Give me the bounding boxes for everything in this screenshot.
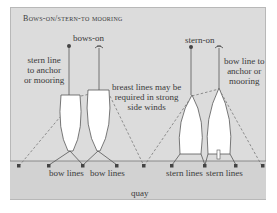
passerelle — [217, 150, 220, 159]
label-breast-lines: breast lines may be required in strong s… — [112, 82, 181, 112]
label-quay: quay — [131, 188, 149, 198]
anchor-icon — [215, 46, 223, 48]
label-bow-lines-1: bow lines — [49, 168, 84, 178]
boat-stern-on-1 — [179, 95, 202, 154]
label-stern-lines-1: stern lines — [166, 168, 203, 178]
mooring-buoy-icon — [189, 45, 193, 49]
mooring-buoy-icon — [67, 44, 71, 48]
label-stern-lines-2: stern lines — [206, 168, 243, 178]
boat-bows-on-1 — [60, 95, 81, 151]
label-stern-on: stern-on — [185, 35, 215, 45]
label-bow-lines-2: bow lines — [90, 168, 125, 178]
label-line: anchor or — [224, 66, 265, 76]
label-line: side winds — [112, 102, 181, 112]
label-line: mooring — [224, 76, 265, 86]
label-bow-line-anchor: bow line to anchor or mooring — [224, 56, 265, 86]
boat-stern-on-2 — [207, 88, 231, 154]
boat-bows-on-2 — [87, 90, 110, 151]
label-stern-line-anchor: stern line to anchor or mooring — [24, 55, 64, 85]
label-bows-on: bows-on — [73, 33, 104, 43]
anchor-icon — [95, 46, 103, 48]
label-line: breast lines may be — [112, 82, 181, 92]
bollards — [17, 164, 265, 168]
label-line: stern line — [24, 55, 64, 65]
label-line: to anchor — [24, 65, 64, 75]
label-line: bow line to — [224, 56, 265, 66]
label-line: required in strong — [112, 92, 181, 102]
label-line: or mooring — [24, 75, 64, 85]
stern-lines — [172, 154, 236, 165]
bow-lines — [49, 151, 117, 165]
diagram-title: Bows-on/stern-to mooring — [23, 14, 123, 23]
